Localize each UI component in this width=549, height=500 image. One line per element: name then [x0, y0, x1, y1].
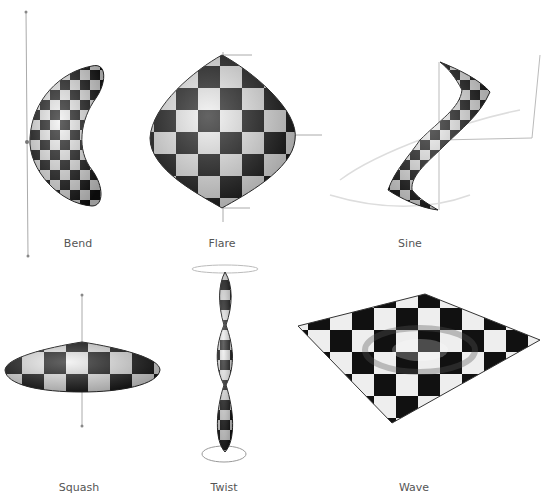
- caption-sine: Sine: [398, 237, 422, 250]
- twist-illustration: [192, 265, 258, 462]
- flare-illustration: [150, 52, 322, 222]
- caption-flare: Flare: [208, 237, 235, 250]
- bend-illustration: [25, 11, 104, 258]
- caption-twist: Twist: [211, 481, 238, 494]
- caption-wave: Wave: [399, 481, 429, 494]
- wave-illustration: [298, 294, 540, 423]
- sine-illustration: [330, 55, 540, 210]
- deformer-illustrations: [0, 0, 549, 500]
- squash-illustration: [5, 294, 160, 428]
- caption-bend: Bend: [64, 237, 92, 250]
- caption-squash: Squash: [59, 481, 99, 494]
